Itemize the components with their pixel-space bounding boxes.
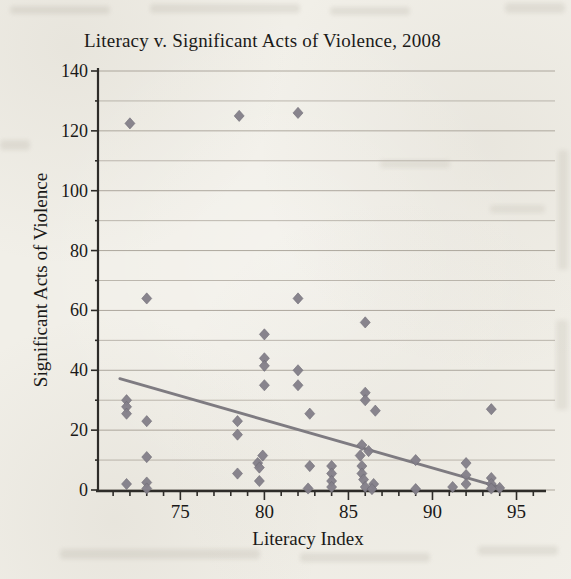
svg-text:120: 120	[61, 121, 88, 141]
svg-text:80: 80	[70, 241, 88, 261]
svg-text:100: 100	[61, 181, 88, 201]
svg-text:40: 40	[70, 360, 88, 380]
svg-text:75: 75	[171, 501, 190, 522]
svg-text:80: 80	[255, 501, 274, 522]
svg-text:0: 0	[79, 480, 88, 500]
svg-text:60: 60	[70, 300, 88, 320]
svg-text:20: 20	[70, 420, 88, 440]
svg-text:95: 95	[507, 501, 526, 522]
chart-canvas: 0204060801001201407580859095	[0, 0, 571, 579]
svg-text:140: 140	[61, 61, 88, 81]
svg-text:90: 90	[423, 501, 442, 522]
scanned-page: Literacy v. Significant Acts of Violence…	[0, 0, 571, 579]
svg-text:85: 85	[339, 501, 358, 522]
